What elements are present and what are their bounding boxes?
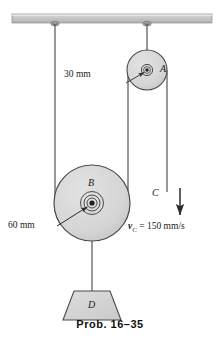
label-block-d: D	[88, 299, 95, 310]
velocity-value: = 150 mm/s	[139, 221, 184, 231]
label-pulley-b: B	[88, 177, 94, 188]
label-radius-a: 30 mm	[64, 69, 91, 79]
label-cord-c: C	[152, 187, 159, 198]
label-velocity-c: vC = 150 mm/s	[128, 221, 185, 234]
label-pulley-a: A	[160, 63, 166, 74]
label-radius-b: 60 mm	[8, 220, 35, 230]
hook-right	[143, 21, 151, 26]
figure-caption: Prob. 16–35	[0, 318, 220, 330]
velocity-subscript: C	[132, 226, 137, 234]
ceiling-support	[12, 14, 212, 23]
hook-left	[51, 21, 59, 26]
pulley-system-figure	[0, 0, 220, 337]
